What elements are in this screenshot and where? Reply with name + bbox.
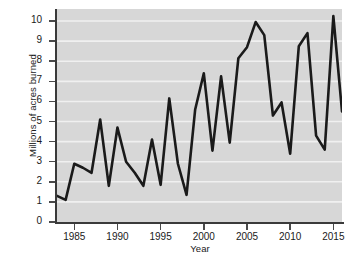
y-tick-mark [49,101,55,103]
x-tick-mark [117,224,119,230]
y-tick-mark [49,161,55,163]
x-tick-mark [160,224,162,230]
y-tick-label: 7 [0,74,42,85]
x-tick-label: 1995 [137,231,185,242]
y-tick-label: 8 [0,54,42,65]
chart-figure: Millions of acres burned 012345678910 19… [0,0,349,263]
y-tick-label: 10 [0,14,42,25]
y-tick-mark [49,60,55,62]
x-tick-label: 2005 [223,231,271,242]
y-tick-mark [49,40,55,42]
data-series-line [57,9,342,222]
y-tick-label: 1 [0,195,42,206]
plot-area [57,9,342,222]
y-tick-label: 0 [0,215,42,226]
x-tick-label: 2015 [309,231,349,242]
y-tick-mark [49,141,55,143]
y-tick-mark [49,201,55,203]
x-tick-mark [74,224,76,230]
y-tick-label: 2 [0,175,42,186]
y-tick-label: 3 [0,155,42,166]
y-tick-label: 5 [0,115,42,126]
y-tick-label: 9 [0,34,42,45]
x-tick-mark [246,224,248,230]
x-tick-mark [203,224,205,230]
y-tick-mark [49,20,55,22]
y-tick-mark [49,81,55,83]
x-tick-mark [333,224,335,230]
x-tick-label: 1985 [50,231,98,242]
x-tick-mark [289,224,291,230]
y-tick-label: 6 [0,94,42,105]
x-axis-spine [55,222,344,224]
y-tick-mark [49,221,55,223]
y-tick-mark [49,181,55,183]
y-tick-mark [49,121,55,123]
y-tick-label: 4 [0,135,42,146]
x-axis-title: Year [55,243,345,254]
x-tick-label: 2000 [180,231,228,242]
x-tick-label: 1990 [93,231,141,242]
x-tick-label: 2010 [266,231,314,242]
